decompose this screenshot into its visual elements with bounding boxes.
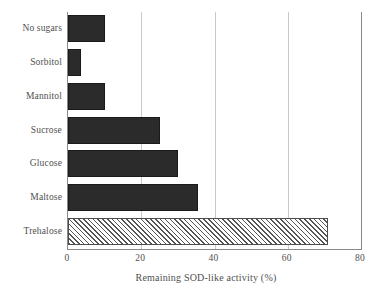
x-tick-0: 0 [65,253,70,263]
bar-glucose [68,150,178,177]
bar-maltose [68,184,198,211]
y-tick-no-sugars: No sugars [0,23,62,33]
y-tick-mannitol: Mannitol [0,91,62,101]
bar-trehalose [68,218,328,245]
x-tick-80: 80 [355,253,365,263]
x-tick-20: 20 [135,253,145,263]
y-tick-maltose: Maltose [0,192,62,202]
plot-area [67,12,362,250]
bar-row [68,12,361,46]
bar-mannitol [68,83,105,110]
bar-row [68,181,361,215]
bar-no-sugars [68,15,105,42]
bar-chart-figure: No sugarsSorbitolMannitolSucroseGlucoseM… [0,0,384,296]
bar-sorbitol [68,49,81,76]
y-tick-glucose: Glucose [0,158,62,168]
bar-row [68,147,361,181]
bar-row [68,215,361,249]
bar-sucrose [68,117,160,144]
bar-row [68,80,361,114]
x-tick-60: 60 [282,253,292,263]
y-tick-trehalose: Trehalose [0,226,62,236]
bar-row [68,114,361,148]
x-axis-title: Remaining SOD-like activity (%) [0,272,384,283]
x-tick-40: 40 [209,253,219,263]
y-tick-sorbitol: Sorbitol [0,57,62,67]
bar-row [68,46,361,80]
y-tick-sucrose: Sucrose [0,125,62,135]
